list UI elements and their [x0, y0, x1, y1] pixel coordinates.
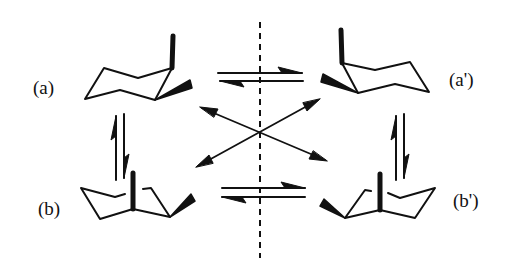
- label-a: (a): [33, 78, 54, 97]
- chair-a: [85, 36, 192, 100]
- equilibrium-arrow-b-b-prime: [222, 182, 305, 203]
- axial-bond-a: [172, 36, 173, 68]
- label-b: (b): [38, 199, 60, 218]
- chair-a-prime: [321, 30, 429, 93]
- wedge-bond-b: [170, 194, 195, 217]
- chair-b: [81, 173, 195, 219]
- chair-b-prime: [320, 174, 435, 218]
- diagram-svg: [0, 0, 507, 267]
- label-a-prime: (a'): [449, 70, 474, 89]
- equilibrium-arrow-a-prime-b-prime: [391, 114, 409, 180]
- label-b-prime: (b'): [453, 191, 479, 210]
- wedge-bond-b-prime: [320, 199, 345, 218]
- axial-bond-a-prime: [341, 30, 342, 63]
- equilibrium-arrow-a-b: [111, 114, 129, 180]
- diagram-canvas: (a) (a') (b) (b'): [0, 0, 507, 267]
- cross-arrow-a-b-prime: [200, 107, 327, 161]
